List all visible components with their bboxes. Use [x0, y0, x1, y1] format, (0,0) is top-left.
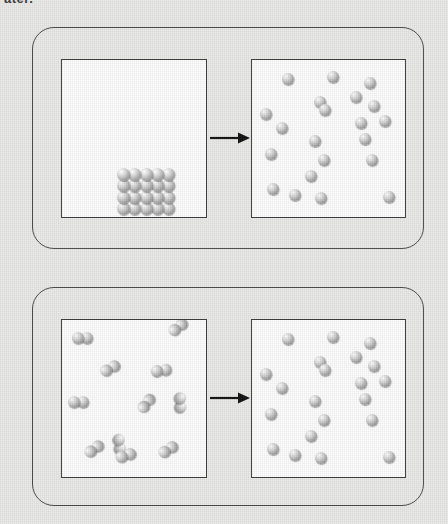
gas-atom [368, 360, 380, 372]
gas-atom [276, 122, 288, 134]
gas-atom [366, 414, 378, 426]
molecule-atom [72, 332, 84, 344]
gas-atom [267, 183, 279, 195]
lattice-atom [162, 191, 175, 204]
gas-atom [260, 368, 272, 380]
gas-atom [309, 135, 321, 147]
gas-atom [282, 333, 294, 345]
lattice-atom [162, 202, 175, 215]
gas-atom [282, 73, 294, 85]
gas-atom [327, 71, 339, 83]
gas-atom [366, 154, 378, 166]
gas-atom [379, 375, 391, 387]
gas-atom [318, 154, 330, 166]
lattice-atom [117, 168, 130, 181]
right-arrow-icon [209, 131, 251, 145]
gas-atom [267, 443, 279, 455]
lattice-atom [151, 202, 164, 215]
gas-atom [260, 108, 272, 120]
particle-box-gas-atoms-top [251, 59, 406, 218]
right-arrow-icon [209, 391, 251, 405]
lattice-atom [140, 191, 153, 204]
panel-diatomic-to-atomic [32, 287, 424, 506]
gas-atom [318, 414, 330, 426]
lattice-atom [117, 179, 130, 192]
lattice-atom [140, 179, 153, 192]
particle-box-diatomic-molecules [61, 319, 207, 478]
gas-atom [305, 430, 317, 442]
gas-atom [265, 408, 277, 420]
gas-atom [309, 395, 321, 407]
lattice-atom [117, 191, 130, 204]
gas-atom [359, 133, 371, 145]
gas-atom [305, 170, 317, 182]
gas-atom [315, 192, 327, 204]
gas-atom [355, 117, 367, 129]
lattice-atom [128, 191, 141, 204]
gas-atom [327, 331, 339, 343]
molecule-atom [150, 364, 164, 378]
gas-atom [289, 449, 301, 461]
lattice-atom [117, 202, 130, 215]
lattice-atom [128, 168, 141, 181]
gas-atom [355, 377, 367, 389]
gas-atom [319, 364, 331, 376]
lattice-atom [128, 202, 141, 215]
gas-atom [265, 148, 277, 160]
lattice-atom [162, 179, 175, 192]
particle-box-gas-atoms-bottom [251, 319, 406, 478]
gas-atom [383, 451, 395, 463]
gas-atom [359, 393, 371, 405]
gas-atom [276, 382, 288, 394]
lattice-atom [151, 191, 164, 204]
gas-atom [379, 115, 391, 127]
lattice-atom [151, 179, 164, 192]
gas-atom [350, 91, 362, 103]
panel-solid-to-gas [32, 27, 424, 249]
gas-atom [315, 452, 327, 464]
lattice-atom [128, 179, 141, 192]
clipped-caption-text: ater. [4, 0, 33, 6]
gas-atom [368, 100, 380, 112]
gas-atom [383, 191, 395, 203]
particle-box-solid-lattice [61, 59, 207, 218]
lattice-atom [151, 168, 164, 181]
gas-atom [364, 337, 376, 349]
lattice-atom [140, 168, 153, 181]
molecule-atom [68, 396, 80, 408]
gas-atom [289, 189, 301, 201]
gas-atom [364, 77, 376, 89]
gas-atom [350, 351, 362, 363]
gas-atom [319, 104, 331, 116]
lattice-atom [162, 168, 175, 181]
lattice-atom [140, 202, 153, 215]
